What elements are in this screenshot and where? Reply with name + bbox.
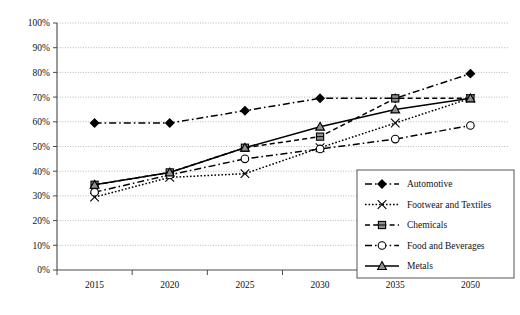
chart-canvas: 0%10%20%30%40%50%60%70%80%90%100% 201520… — [0, 0, 520, 315]
y-tick-label: 50% — [33, 142, 51, 152]
y-tick-label: 20% — [33, 216, 51, 226]
legend-item-food-and-beverages[interactable]: Food and Beverages — [365, 241, 485, 251]
line-chart: 0%10%20%30%40%50%60%70%80%90%100% 201520… — [0, 0, 520, 315]
legend-label: Automotive — [407, 179, 452, 189]
y-tick-label: 30% — [33, 191, 51, 201]
y-tick-label: 60% — [33, 117, 51, 127]
x-tick-label: 2050 — [461, 280, 480, 290]
data-point-circle — [391, 135, 399, 143]
legend-label: Food and Beverages — [407, 241, 485, 251]
y-tick-label: 90% — [33, 43, 51, 53]
data-point-diamond — [241, 106, 249, 114]
series-line — [95, 74, 471, 123]
data-point-circle — [467, 122, 475, 130]
data-point-diamond — [466, 69, 474, 77]
data-point-diamond — [166, 119, 174, 127]
legend-label: Footwear and Textiles — [407, 200, 491, 210]
data-point-circle — [241, 155, 249, 163]
y-axis-tick-labels: 0%10%20%30%40%50%60%70%80%90%100% — [28, 18, 50, 275]
x-tick-label: 2035 — [386, 280, 405, 290]
x-axis-tick-labels: 201520202025203020352050 — [85, 280, 480, 290]
data-point-circle — [91, 188, 99, 196]
data-point-circle — [316, 145, 324, 153]
y-tick-label: 100% — [28, 18, 50, 28]
x-tick-label: 2025 — [235, 280, 254, 290]
x-tick-label: 2030 — [311, 280, 330, 290]
x-tick-label: 2020 — [160, 280, 179, 290]
y-tick-label: 80% — [33, 68, 51, 78]
legend-label: Metals — [407, 261, 433, 271]
y-tick-label: 0% — [37, 265, 50, 275]
data-point-diamond — [90, 119, 98, 127]
y-tick-label: 40% — [33, 167, 51, 177]
x-tick-label: 2015 — [85, 280, 104, 290]
chart-legend: AutomotiveFootwear and TextilesChemicals… — [357, 170, 514, 278]
y-tick-label: 70% — [33, 93, 51, 103]
data-point-diamond — [316, 94, 324, 102]
data-point-circle — [378, 242, 386, 250]
legend-label: Chemicals — [407, 220, 447, 230]
y-tick-label: 10% — [33, 241, 51, 251]
